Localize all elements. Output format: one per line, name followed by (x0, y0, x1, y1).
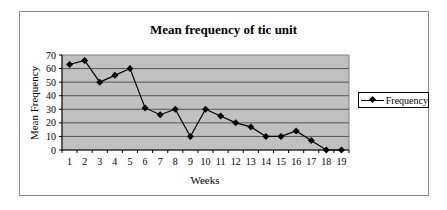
y-tick-label: 0 (51, 145, 56, 156)
y-tick-label: 70 (46, 50, 56, 61)
y-tick-label: 60 (46, 63, 56, 74)
x-tick-label: 5 (127, 156, 132, 167)
x-tick-label: 3 (97, 156, 102, 167)
x-tick-label: 11 (216, 156, 226, 167)
x-tick-label: 1 (67, 156, 72, 167)
x-tick-label: 19 (336, 156, 346, 167)
x-tick-label: 4 (112, 156, 117, 167)
x-tick-label: 18 (321, 156, 331, 167)
y-tick-label: 40 (46, 90, 56, 101)
x-tick-label: 7 (158, 156, 163, 167)
y-tick-label: 10 (46, 131, 56, 142)
x-tick-label: 16 (291, 156, 301, 167)
legend-label: Frequency (386, 95, 428, 106)
x-tick-label: 13 (246, 156, 256, 167)
y-tick-label: 50 (46, 77, 56, 88)
x-tick-label: 14 (261, 156, 271, 167)
x-tick-label: 10 (201, 156, 211, 167)
x-tick-label: 12 (231, 156, 241, 167)
y-tick-label: 20 (46, 117, 56, 128)
x-tick-label: 15 (276, 156, 286, 167)
x-tick-label: 8 (173, 156, 178, 167)
x-tick-label: 9 (188, 156, 193, 167)
legend: Frequency (358, 92, 429, 108)
x-tick-label: 17 (306, 156, 316, 167)
x-tick-label: 6 (143, 156, 148, 167)
y-tick-label: 30 (46, 104, 56, 115)
plot-area (62, 55, 349, 150)
legend-diamond-marker-icon (360, 95, 385, 105)
x-tick-label: 2 (82, 156, 87, 167)
